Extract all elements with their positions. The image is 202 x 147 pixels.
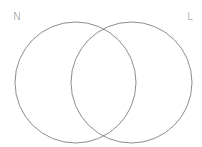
set-l-circle <box>71 22 192 143</box>
set-n-label: N <box>13 11 21 22</box>
set-n-circle <box>15 22 136 143</box>
set-l-label: L <box>187 11 193 22</box>
venn-diagram <box>0 0 202 147</box>
